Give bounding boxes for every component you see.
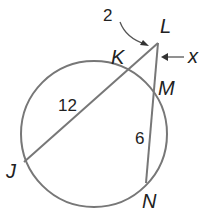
circle [21, 61, 167, 207]
point-J-label: J [5, 160, 17, 182]
length-MN: 6 [135, 129, 144, 148]
length-LM: x [187, 45, 199, 67]
secant-LN [146, 43, 158, 183]
length-KJ: 12 [58, 96, 77, 115]
point-M-label: M [158, 77, 175, 99]
arrowhead-2-icon [140, 40, 149, 46]
point-N-label: N [142, 190, 157, 212]
secant-diagram: 2 L K x M 12 6 J N [0, 0, 210, 212]
length-LK: 2 [103, 6, 112, 25]
point-K-label: K [111, 46, 126, 68]
arrowhead-x-icon [161, 53, 168, 61]
arrow-2-icon [120, 22, 145, 44]
point-L-label: L [160, 15, 171, 37]
